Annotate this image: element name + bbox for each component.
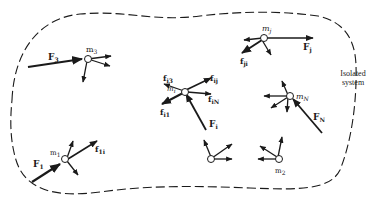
particle-m3 — [28, 56, 111, 83]
isolated-label-line1: Isolated — [333, 69, 373, 78]
label-Fj: Fj — [303, 42, 312, 54]
label-Fi: Fi — [209, 119, 218, 130]
isolated-system-diagram: F3 m3 mj Fj fji fi3 mi fij fiN fi1 Fi mN… — [0, 0, 375, 209]
particle-m1 — [32, 141, 97, 182]
label-FN: FN — [313, 112, 325, 123]
label-fiN: fiN — [208, 94, 220, 105]
system-boundary — [11, 12, 356, 194]
particle-m2 — [258, 137, 283, 163]
label-f1i: f1i — [95, 144, 106, 155]
particle-unlabeled — [204, 140, 232, 163]
label-mN: mN — [296, 92, 310, 102]
isolated-system-label: Isolated system — [333, 69, 373, 87]
label-F1: F1 — [33, 159, 44, 170]
label-m3: m3 — [86, 45, 98, 55]
label-mi: mi — [167, 85, 176, 94]
label-m2: m2 — [275, 167, 286, 176]
particle-mN — [264, 81, 322, 133]
label-fi1: fi1 — [160, 107, 170, 118]
label-F3: F3 — [48, 52, 59, 63]
label-fji: fji — [240, 56, 249, 68]
label-mj: mj — [262, 24, 272, 35]
label-fij: fij — [210, 73, 218, 85]
label-m1: m1 — [50, 149, 60, 158]
isolated-label-line2: system — [333, 78, 373, 87]
label-fi3: fi3 — [163, 73, 173, 84]
